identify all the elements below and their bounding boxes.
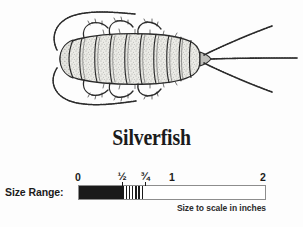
silverfish-drawing-svg — [0, 0, 303, 118]
silverfish-pest-card: Silverfish Size Range: 0 ½ ¾ 1 2 Size to… — [0, 0, 303, 227]
silverfish-illustration — [0, 0, 303, 118]
tick-label-half: ½ — [117, 171, 126, 182]
tick-label-1: 1 — [169, 172, 175, 183]
pest-common-name: Silverfish — [21, 126, 282, 149]
tick-mark-three-quarter — [145, 182, 146, 186]
tick-label-three-quarter: ¾ — [140, 171, 149, 182]
tick-label-2: 2 — [260, 172, 266, 183]
size-range-label: Size Range: — [5, 186, 63, 198]
ruler-fill-extended — [123, 186, 145, 199]
tick-label-0: 0 — [75, 172, 81, 183]
ruler-fill-typical — [79, 186, 123, 199]
scale-caption: Size to scale in inches — [177, 203, 266, 213]
tick-mark-half — [122, 182, 123, 186]
size-range-section: Size Range: 0 ½ ¾ 1 2 Size to scale in i… — [0, 172, 303, 227]
size-range-ruler — [78, 185, 266, 200]
